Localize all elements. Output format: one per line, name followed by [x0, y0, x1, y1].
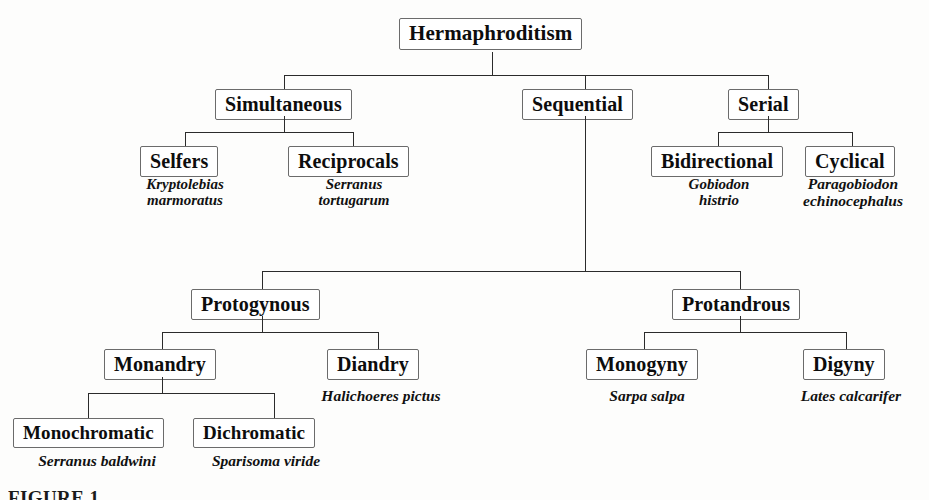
connector-monandry-to-dichromatic — [274, 393, 275, 418]
species-monochromatic: Serranus baldwini — [9, 453, 185, 470]
connector-simultaneous-to-selfers — [185, 132, 186, 146]
connector-protogynous-stem — [262, 316, 263, 332]
species-dichromatic: Sparisoma viride — [186, 453, 346, 470]
connector-root-stem — [492, 52, 493, 75]
species-reciprocals: Serranus tortugarum — [292, 176, 416, 208]
connector-serial-stem — [768, 116, 769, 132]
connector-protandrous-to-monogyny — [644, 332, 645, 349]
node-bidirectional: Bidirectional — [651, 146, 783, 177]
connector-root-to-simultaneous — [284, 75, 285, 89]
species-diandry: Halichoeres pictus — [303, 388, 459, 405]
species-bidirectional: Gobiodon histrio — [657, 176, 781, 208]
node-protogynous: Protogynous — [191, 289, 320, 320]
connector-protandrous-bracket — [644, 332, 846, 333]
node-cyclical: Cyclical — [805, 146, 895, 177]
connector-protogynous-to-monandry — [162, 332, 163, 349]
connector-root-to-serial — [768, 75, 769, 89]
connector-serial-bracket — [718, 132, 852, 133]
connector-root-to-sequential — [585, 75, 586, 89]
node-monochromatic: Monochromatic — [13, 418, 164, 448]
node-dichromatic: Dichromatic — [193, 418, 315, 448]
node-hermaphroditism: Hermaphroditism — [399, 18, 582, 50]
node-serial: Serial — [728, 89, 799, 120]
node-sequential: Sequential — [522, 89, 633, 120]
node-digyny: Digyny — [803, 349, 885, 380]
connector-simultaneous-stem — [284, 116, 285, 132]
connector-simultaneous-bracket — [185, 132, 353, 133]
node-diandry: Diandry — [327, 349, 419, 380]
species-monogyny: Sarpa salpa — [592, 388, 702, 405]
connector-monandry-stem — [162, 377, 163, 393]
connector-protandrous-stem — [740, 316, 741, 332]
connector-protogynous-bracket — [162, 332, 378, 333]
connector-root-bracket — [284, 75, 768, 76]
node-monandry: Monandry — [104, 349, 216, 380]
connector-protogynous-to-diandry — [378, 332, 379, 349]
species-cyclical: Paragobiodon echinocephalus — [778, 176, 928, 209]
species-selfers: Kryptolebias marmoratus — [118, 176, 252, 208]
connector-sequential-bracket — [262, 271, 740, 272]
figure-caption: FIGURE 1 — [8, 487, 99, 500]
hermaphroditism-classification-diagram: Hermaphroditism Simultaneous Sequential … — [0, 0, 929, 500]
connector-monandry-to-monochromatic — [88, 393, 89, 418]
connector-serial-to-cyclical — [852, 132, 853, 146]
connector-simultaneous-to-reciprocals — [353, 132, 354, 146]
connector-sequential-to-protogynous — [262, 271, 263, 289]
connector-sequential-trunk — [585, 116, 586, 271]
node-monogyny: Monogyny — [586, 349, 698, 380]
node-reciprocals: Reciprocals — [288, 146, 409, 177]
species-digyny: Lates calcarifer — [778, 388, 924, 405]
connector-serial-to-bidirectional — [718, 132, 719, 146]
node-protandrous: Protandrous — [672, 289, 800, 320]
node-selfers: Selfers — [140, 146, 218, 177]
connector-protandrous-to-digyny — [846, 332, 847, 349]
connector-monandry-bracket — [88, 393, 274, 394]
connector-sequential-to-protandrous — [740, 271, 741, 289]
